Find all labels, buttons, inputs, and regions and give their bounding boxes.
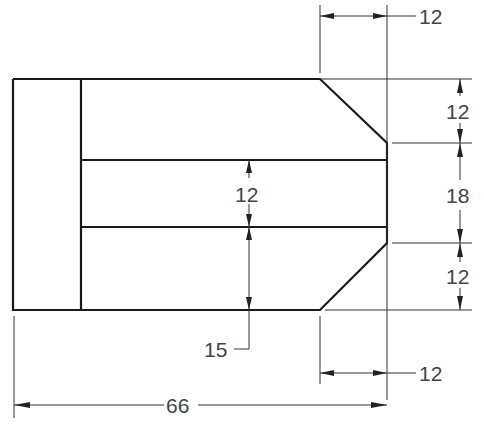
svg-text:12: 12: [235, 183, 258, 206]
dim-top-chamfer-width: 12: [320, 5, 442, 28]
svg-text:66: 66: [166, 394, 189, 417]
dim-slot: 12 15: [204, 160, 258, 361]
dim-right-stack: 12 18 12: [446, 79, 469, 310]
part-outline: [13, 79, 387, 310]
technical-drawing: 12 12 18 12 12 15 12: [0, 0, 484, 435]
svg-text:12: 12: [419, 5, 442, 28]
dim-overall-length: 66: [14, 394, 387, 417]
extension-lines: [14, 5, 472, 418]
svg-text:12: 12: [446, 100, 469, 123]
svg-text:12: 12: [446, 265, 469, 288]
svg-text:12: 12: [419, 362, 442, 385]
svg-text:15: 15: [204, 338, 227, 361]
dim-bottom-chamfer-width: 12: [320, 362, 442, 385]
svg-text:18: 18: [446, 184, 469, 207]
